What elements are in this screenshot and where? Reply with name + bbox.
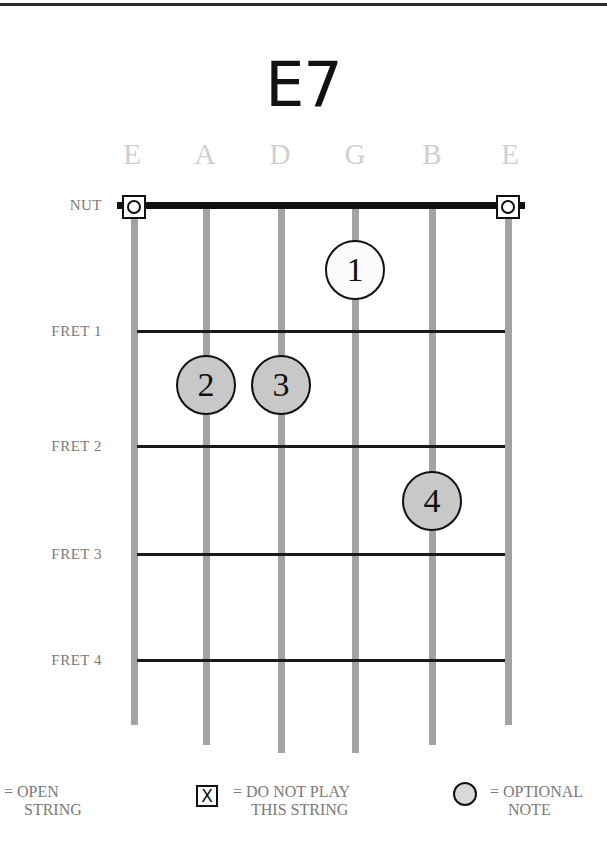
optional-note-icon xyxy=(453,782,477,806)
fret-2-label: FRET 2 xyxy=(0,438,102,455)
legend-optional-note: = OPTIONAL NOTE xyxy=(490,783,583,819)
legend-do-not-play-line1: = DO NOT PLAY xyxy=(233,783,350,801)
top-border xyxy=(0,3,607,6)
string-low-e xyxy=(131,206,138,725)
fret-1-line xyxy=(137,330,505,333)
string-label-b: B xyxy=(412,139,452,169)
string-label-low-e: E xyxy=(112,139,152,169)
fret-2-line xyxy=(137,445,505,448)
finger-2-marker: 2 xyxy=(176,355,236,415)
do-not-play-icon: X xyxy=(196,785,218,807)
open-string-icon-high-e xyxy=(496,195,520,219)
legend-do-not-play: = DO NOT PLAY THIS STRING xyxy=(233,783,350,819)
string-high-e xyxy=(505,206,512,725)
fret-3-line xyxy=(137,553,505,556)
legend-optional-line1: = OPTIONAL xyxy=(490,783,583,801)
string-d xyxy=(278,206,285,753)
open-string-icon-low-e xyxy=(122,195,146,219)
nut-label: NUT xyxy=(0,197,102,214)
fret-1-label: FRET 1 xyxy=(0,323,102,340)
nut-bar xyxy=(117,202,525,209)
fret-3-label: FRET 3 xyxy=(0,546,102,563)
legend-open-string: = OPEN STRING xyxy=(4,783,82,819)
finger-1-marker: 1 xyxy=(325,240,385,300)
string-label-high-e: E xyxy=(490,139,530,169)
legend-open-line2: STRING xyxy=(4,801,82,819)
string-label-d: D xyxy=(260,139,300,169)
chord-title: E7 xyxy=(0,54,607,116)
string-label-g: G xyxy=(335,139,375,169)
finger-3-marker: 3 xyxy=(251,355,311,415)
legend-open-line1: = OPEN xyxy=(4,783,82,801)
finger-4-marker: 4 xyxy=(402,471,462,531)
legend-optional-line2: NOTE xyxy=(490,801,583,819)
string-a xyxy=(203,206,210,745)
fret-4-line xyxy=(137,659,505,662)
fret-4-label: FRET 4 xyxy=(0,652,102,669)
string-label-a: A xyxy=(185,139,225,169)
legend-do-not-play-line2: THIS STRING xyxy=(233,801,350,819)
